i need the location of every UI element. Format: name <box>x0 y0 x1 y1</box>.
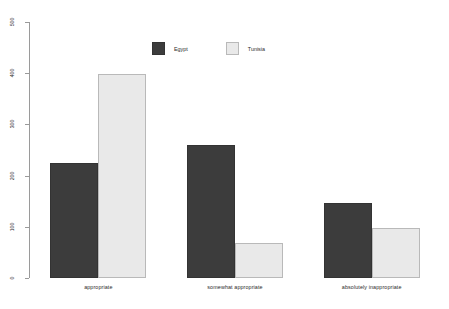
y-axis-tick-label: 100 <box>0 223 24 231</box>
y-axis-tick-label: 400 <box>0 69 24 77</box>
y-axis-tick <box>25 73 29 74</box>
y-axis-tick <box>25 124 29 125</box>
plot-area <box>30 22 440 278</box>
bar-tunisia-1 <box>235 243 283 278</box>
x-axis-label-0: appropriate <box>84 284 112 290</box>
y-axis-tick <box>25 22 29 23</box>
bar-egypt-0 <box>50 163 98 278</box>
bar-tunisia-2 <box>372 228 420 278</box>
y-axis-tick-label: 500 <box>0 18 24 26</box>
x-axis-label-2: absolutely inappropriate <box>342 284 402 290</box>
x-axis-label-1: somewhat appropriate <box>207 284 262 290</box>
bar-egypt-1 <box>187 145 235 278</box>
bar-chart: 0100200300400500 Egypt Tunisia appropria… <box>0 0 449 309</box>
y-axis-tick-label: 0 <box>0 274 24 282</box>
y-axis-tick <box>25 176 29 177</box>
y-axis-tick-label: 200 <box>0 172 24 180</box>
y-axis-tick <box>25 278 29 279</box>
bar-tunisia-0 <box>98 74 146 278</box>
bar-egypt-2 <box>324 203 372 278</box>
y-axis-tick <box>25 227 29 228</box>
y-axis-tick-label: 300 <box>0 120 24 128</box>
